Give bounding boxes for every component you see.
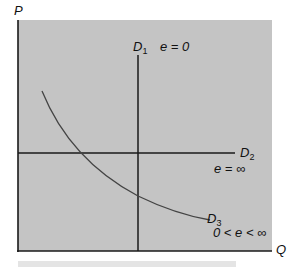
d2-elasticity: e = ∞ (214, 162, 245, 175)
d1-label: D1 (133, 40, 147, 56)
p-axis-label: P (14, 4, 23, 17)
d1-sub: 1 (142, 46, 147, 56)
d2-sub: 2 (249, 152, 254, 162)
d3-elasticity: 0 < e < ∞ (213, 226, 266, 239)
elasticity-diagram: P Q D1 e = 0 D2 e = ∞ D3 0 < e < ∞ (0, 0, 290, 267)
d1-elasticity: e = 0 (160, 40, 189, 53)
d3-name: D (207, 211, 216, 226)
d2-name: D (240, 145, 249, 160)
d1-name: D (133, 39, 142, 54)
bottom-strip (18, 261, 236, 267)
d2-label: D2 (240, 146, 254, 162)
q-axis-label: Q (276, 243, 286, 256)
